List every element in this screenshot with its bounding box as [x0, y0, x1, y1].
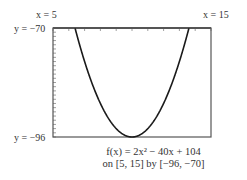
window-caption: on [5, 15] by [−96, −70] [30, 158, 247, 169]
plot-frame [53, 28, 211, 137]
function-caption: f(x) = 2x² − 40x + 104 [30, 146, 247, 157]
function-curve [75, 28, 189, 137]
